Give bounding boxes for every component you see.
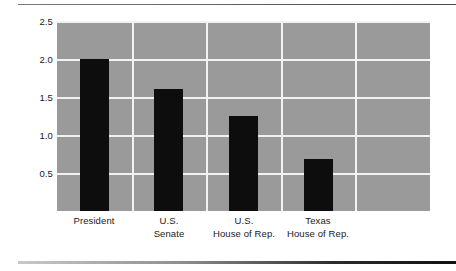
bar xyxy=(304,159,333,211)
bar xyxy=(154,89,183,211)
gridline-horizontal xyxy=(57,59,430,61)
y-axis-tick-label: 2.0 xyxy=(7,54,53,65)
bar-chart-figure: Vote (in millions) 2.52.01.51.00.5 Presi… xyxy=(0,0,456,271)
gridline-vertical xyxy=(206,21,208,211)
x-axis-tick-label-line: Texas xyxy=(263,215,373,228)
y-axis-tick-label: 1.0 xyxy=(7,130,53,141)
x-axis-tick-label: TexasHouse of Rep. xyxy=(263,215,373,240)
y-axis-tick-label: 2.5 xyxy=(7,16,53,27)
gridline-horizontal xyxy=(57,21,430,23)
gridline-vertical xyxy=(132,21,134,211)
x-axis-tick-label-line: House of Rep. xyxy=(263,228,373,241)
y-axis-tick-label: 1.5 xyxy=(7,92,53,103)
top-divider-rule xyxy=(18,4,456,5)
gridline-vertical xyxy=(355,21,357,211)
bottom-divider-rule xyxy=(18,261,456,264)
bar xyxy=(80,59,109,211)
y-axis-tick-label: 0.5 xyxy=(7,168,53,179)
gridline-vertical xyxy=(281,21,283,211)
bar xyxy=(229,116,258,211)
y-axis-ticks: 2.52.01.51.00.5 xyxy=(0,0,53,271)
gridline-horizontal xyxy=(57,97,430,99)
plot-area xyxy=(57,21,430,211)
